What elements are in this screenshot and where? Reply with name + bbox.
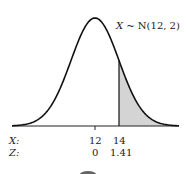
- title-params: ~ N(12, 2): [123, 20, 180, 31]
- x-mean-label: 12: [89, 136, 102, 146]
- x-cutoff-label: 14: [113, 136, 126, 146]
- normal-density-curve: [12, 18, 179, 126]
- shaded-tail-area: [119, 60, 179, 126]
- distribution-title: X ~ N(12, 2): [116, 20, 180, 31]
- z-cutoff-label: 1.41: [110, 148, 132, 158]
- x-row-label: X:: [9, 136, 20, 146]
- decorative-mark: [80, 171, 96, 174]
- z-row-label: Z:: [9, 148, 19, 158]
- z-mean-label: 0: [92, 148, 98, 158]
